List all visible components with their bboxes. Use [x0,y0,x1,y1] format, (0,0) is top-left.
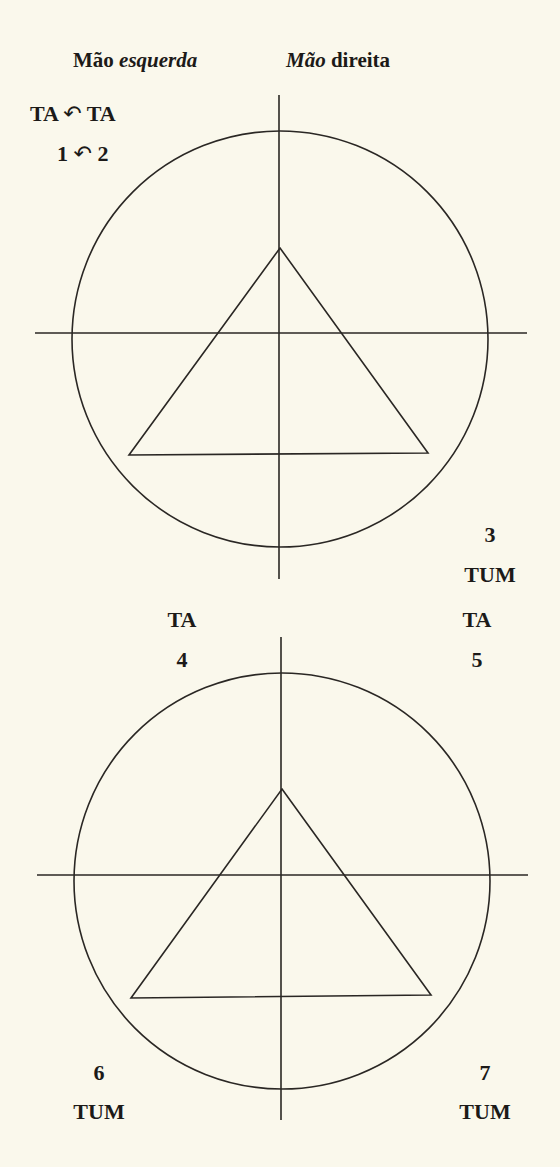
circle-bottom [74,673,490,1089]
diagram-bottom [37,637,528,1120]
diagram-canvas [0,0,560,1167]
circle-top [72,131,488,547]
diagram-top [35,95,527,579]
